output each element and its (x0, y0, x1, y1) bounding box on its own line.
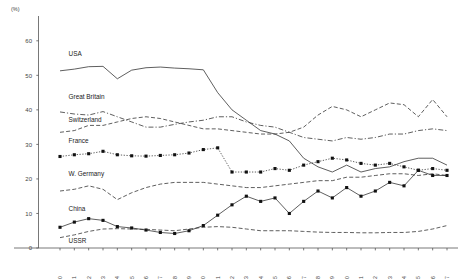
data-point-marker (359, 162, 362, 165)
data-point-marker (101, 219, 104, 222)
data-point-marker (245, 170, 248, 173)
data-point-marker (374, 164, 377, 167)
data-point-marker (245, 195, 248, 198)
data-point-marker (73, 153, 76, 156)
data-point-marker (87, 217, 90, 220)
series-line-china (60, 170, 447, 233)
data-point-marker (402, 184, 405, 187)
data-point-marker (331, 196, 334, 199)
chart-container: (%)0102030405060 19601961196219631964196… (0, 0, 458, 279)
series-line-great-britain (60, 112, 447, 141)
data-point-marker (431, 174, 434, 177)
data-point-marker (445, 174, 448, 177)
data-point-marker (431, 167, 434, 170)
y-axis-tick-label: 50 (25, 73, 32, 79)
y-axis-tick-label: 40 (25, 107, 32, 113)
data-point-marker (345, 186, 348, 189)
data-point-marker (302, 164, 305, 167)
y-axis: (%)0102030405060 (11, 6, 39, 252)
data-point-marker (345, 158, 348, 161)
data-point-marker (116, 225, 119, 228)
data-point-marker (374, 189, 377, 192)
data-point-marker (202, 148, 205, 151)
data-point-marker (130, 154, 133, 157)
x-axis: 1960196119621963196419651966196719681969… (14, 248, 458, 279)
data-point-marker (144, 228, 147, 231)
series-inline-label: W. Germany (69, 170, 105, 178)
data-point-marker (388, 162, 391, 165)
data-point-marker (87, 152, 90, 155)
data-point-marker (144, 155, 147, 158)
series-inline-label: Switzerland (69, 116, 102, 123)
data-point-marker (187, 229, 190, 232)
data-point-marker (316, 189, 319, 192)
data-point-marker (288, 212, 291, 215)
data-point-marker (159, 231, 162, 234)
data-point-marker (359, 195, 362, 198)
data-point-marker (58, 226, 61, 229)
y-axis-tick-label: 10 (25, 211, 32, 217)
series-line-france (60, 148, 447, 172)
series-line-w-germany (60, 174, 447, 200)
y-axis-tick-label: 20 (25, 176, 32, 182)
data-point-marker (73, 221, 76, 224)
series-inline-label: France (69, 137, 89, 144)
data-point-marker (302, 200, 305, 203)
data-point-marker (230, 170, 233, 173)
data-point-marker (331, 157, 334, 160)
series-line-switzerland (60, 100, 447, 135)
data-point-marker (216, 146, 219, 149)
data-point-marker (445, 169, 448, 172)
data-point-marker (202, 224, 205, 227)
data-point-marker (316, 160, 319, 163)
series-inline-label: USSR (69, 237, 87, 244)
data-point-marker (288, 169, 291, 172)
data-point-marker (116, 153, 119, 156)
data-point-marker (58, 155, 61, 158)
data-point-marker (187, 151, 190, 154)
y-axis-tick-label: 60 (25, 38, 32, 44)
series-inline-label: China (69, 205, 86, 212)
data-point-marker (101, 150, 104, 153)
data-point-marker (230, 203, 233, 206)
data-point-marker (173, 153, 176, 156)
series-label-layer: USAGreat BritainSwitzerlandFranceW. Germ… (69, 50, 105, 244)
series-inline-label: Great Britain (69, 93, 105, 100)
line-chart: (%)0102030405060 19601961196219631964196… (0, 0, 458, 279)
data-point-marker (173, 232, 176, 235)
series-inline-label: USA (69, 50, 83, 57)
y-axis-tick-label: 30 (25, 142, 32, 148)
data-point-marker (388, 181, 391, 184)
data-point-marker (402, 165, 405, 168)
series-layer (58, 66, 448, 237)
y-axis-unit-label: (%) (11, 6, 20, 12)
data-point-marker (216, 214, 219, 217)
data-point-marker (273, 167, 276, 170)
data-point-marker (417, 169, 420, 172)
data-point-marker (259, 170, 262, 173)
data-point-marker (259, 200, 262, 203)
data-point-marker (159, 154, 162, 157)
data-point-marker (273, 196, 276, 199)
